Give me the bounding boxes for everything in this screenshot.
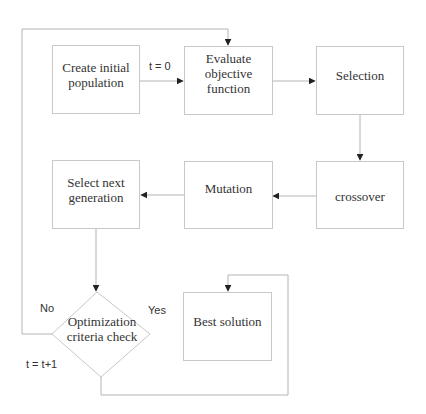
edge-label-t0: t = 0 [149, 60, 171, 72]
node-optimization-criteria-check: Optimization criteria check [58, 314, 146, 344]
edge-label-yes: Yes [148, 304, 166, 316]
node-selection-label: Selection [336, 68, 384, 83]
node-best-solution: Best solution [183, 292, 272, 361]
node-mutation-label: Mutation [205, 181, 253, 196]
node-select-next-generation: Select next generation [52, 160, 140, 229]
node-create-initial-population: Create initial population [52, 45, 140, 114]
node-evaluate-line1: Evaluate [205, 51, 253, 66]
node-mutation: Mutation [184, 161, 273, 229]
node-crossover-label: crossover [335, 189, 385, 204]
node-crossover: crossover [316, 161, 404, 229]
node-evaluate-line3: function [205, 81, 253, 96]
ga-flowchart: Create initial population Evaluate objec… [0, 0, 426, 414]
edge-label-increment: t = t+1 [26, 358, 57, 370]
node-create-line1: Create initial [62, 60, 130, 75]
node-evaluate-line2: objective [205, 66, 253, 81]
decision-line2: criteria check [58, 329, 146, 344]
node-selection: Selection [316, 46, 404, 115]
node-selectnext-line1: Select next [67, 175, 124, 190]
node-evaluate-objective-function: Evaluate objective function [184, 46, 273, 115]
node-create-line2: population [62, 75, 130, 90]
node-selectnext-line2: generation [67, 190, 124, 205]
edge-label-no: No [40, 302, 54, 314]
node-best-label: Best solution [193, 314, 261, 329]
decision-line1: Optimization [58, 314, 146, 329]
